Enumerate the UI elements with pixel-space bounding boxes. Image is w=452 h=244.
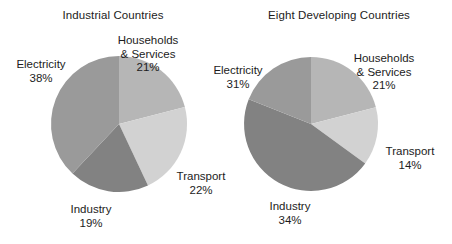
right-label-electricity-name: Electricity [213,64,262,76]
two-pie-chart-figure: Industrial Countries Households & Servic… [0,0,452,244]
right-label-transport: Transport 14% [374,145,446,172]
left-label-industry-name: Industry [71,203,112,215]
left-label-households-pct: 21% [100,61,196,75]
left-label-electricity-name: Electricity [16,58,65,70]
left-label-electricity-pct: 38% [5,72,77,86]
left-label-transport-name: Transport [177,170,226,182]
right-label-electricity-pct: 31% [202,78,274,92]
left-chart-title: Industrial Countries [0,8,226,22]
right-label-households-name-line2: & Services [357,66,412,78]
right-label-industry: Industry 34% [256,200,324,227]
left-label-households-name-line1: Households [118,34,179,46]
right-label-industry-pct: 34% [256,214,324,228]
right-label-households-name-line1: Households [354,52,415,64]
right-label-transport-pct: 14% [374,159,446,173]
right-label-electricity: Electricity 31% [202,64,274,91]
right-label-households-pct: 21% [336,79,432,93]
right-chart-panel: Eight Developing Countries Households & … [226,0,452,244]
left-label-industry: Industry 19% [57,203,125,230]
right-label-industry-name: Industry [270,200,311,212]
left-label-industry-pct: 19% [57,217,125,231]
right-label-transport-name: Transport [386,145,435,157]
left-chart-panel: Industrial Countries Households & Servic… [0,0,226,244]
left-label-electricity: Electricity 38% [5,58,77,85]
left-label-households-name-line2: & Services [121,48,176,60]
right-chart-title: Eight Developing Countries [226,8,452,22]
right-label-households: Households & Services 21% [336,52,432,93]
left-label-households: Households & Services 21% [100,34,196,75]
